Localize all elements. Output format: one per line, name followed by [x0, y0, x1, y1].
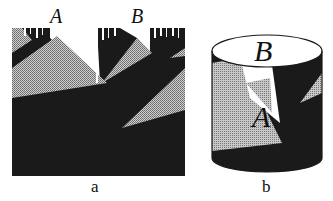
- label-b-B: B: [254, 34, 272, 68]
- label-a-A: A: [50, 5, 62, 28]
- caption-b: b: [262, 177, 271, 197]
- cellular-automaton-pattern: [12, 28, 185, 176]
- caption-a: a: [91, 177, 99, 197]
- label-b-A: A: [252, 100, 270, 134]
- panel-a: [12, 28, 185, 176]
- label-a-B: B: [131, 5, 143, 28]
